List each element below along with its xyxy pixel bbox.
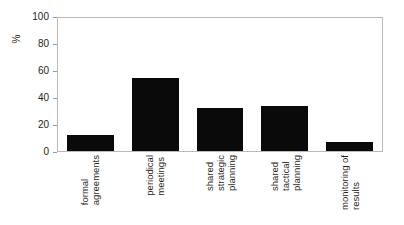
bar[interactable] [132,78,179,151]
x-label-slot: sharedtacticalplanning [252,155,317,225]
bar-chart-figure: % 020406080100 formalagreementsperiodica… [0,0,404,225]
x-axis-label: sharedtacticalplanning [268,155,301,191]
x-axis-label: monitoring ofresults [339,155,361,210]
bar-slot [67,18,114,151]
bar[interactable] [67,135,114,151]
x-axis-label-line: results [350,155,361,210]
x-axis-label: formalagreements [79,155,101,205]
x-axis-label: sharedstrategicplanning [203,155,236,191]
y-tick-label: 0 [43,145,49,158]
bar-slot [326,18,373,151]
y-tick-label: 60 [38,64,49,77]
bar-slot [261,18,308,151]
y-tick-mark [53,152,57,153]
y-tick-label: 20 [38,118,49,131]
x-axis-label-line: periodical [144,155,155,196]
x-axis-label-line: agreements [90,155,101,205]
x-axis-label-line: planning [225,155,236,191]
bar[interactable] [326,142,373,151]
y-axis-ticks: 020406080100 [0,17,57,152]
y-tick-label: 100 [32,10,49,23]
x-label-slot: monitoring ofresults [317,155,382,225]
x-axis-label: periodicalmeetings [144,155,166,196]
x-axis-label-line: shared [203,155,214,191]
x-axis-label-line: meetings [155,155,166,196]
x-axis-label-line: monitoring of [339,155,350,210]
x-axis-label-line: tactical [279,155,290,191]
y-tick-label: 80 [38,37,49,50]
x-axis-label-line: planning [290,155,301,191]
bar[interactable] [197,108,244,151]
x-label-slot: sharedstrategicplanning [188,155,253,225]
x-label-slot: periodicalmeetings [123,155,188,225]
bar-slot [197,18,244,151]
x-axis-label-line: shared [268,155,279,191]
bar-slot [132,18,179,151]
y-tick-label: 40 [38,91,49,104]
x-axis-labels: formalagreementsperiodicalmeetingsshared… [58,155,382,225]
bar[interactable] [261,106,308,151]
x-axis-label-line: strategic [214,155,225,191]
x-label-slot: formalagreements [58,155,123,225]
x-axis-label-line: formal [79,155,90,205]
bars-layer [58,18,382,151]
